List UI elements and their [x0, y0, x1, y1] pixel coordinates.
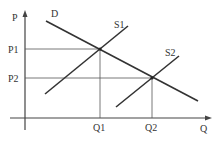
equilibrium-point-2 — [150, 76, 153, 79]
y-axis-label: P — [12, 12, 18, 23]
supply-1-label: S1 — [114, 19, 125, 30]
demand-curve — [46, 21, 198, 101]
p2-label: P2 — [8, 73, 19, 84]
q2-label: Q2 — [145, 122, 157, 133]
y-axis-arrow-icon — [23, 10, 28, 17]
supply-demand-diagram: P Q D S1 S2 P1 P2 Q1 Q2 — [0, 0, 218, 141]
supply-2-label: S2 — [165, 47, 176, 58]
q1-label: Q1 — [93, 122, 105, 133]
equilibrium-point-1 — [98, 47, 101, 50]
p1-label: P1 — [8, 44, 19, 55]
axes — [10, 10, 212, 130]
demand-label: D — [51, 8, 58, 19]
supply-curve-1 — [45, 26, 128, 94]
x-axis-label: Q — [200, 123, 208, 134]
x-axis-arrow-icon — [205, 116, 212, 121]
